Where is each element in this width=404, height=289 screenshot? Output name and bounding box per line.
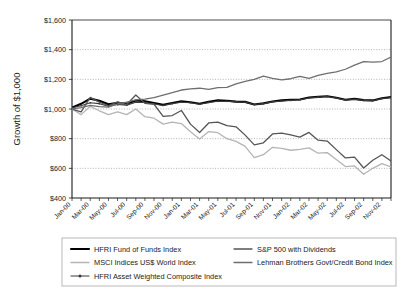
x-tick-label: May-00 — [88, 201, 109, 222]
x-tick-label: May-01 — [197, 201, 218, 222]
y-axis-label: Growth of $1,000 — [11, 73, 22, 146]
legend-item[interactable]: MSCI Indices US$ World Index — [71, 258, 196, 267]
series-marker — [390, 97, 392, 99]
series-marker — [381, 98, 383, 100]
legend-item[interactable]: HFRI Fund of Funds Index — [71, 245, 181, 254]
legend-label: MSCI Indices US$ World Index — [94, 258, 196, 267]
series-layer — [71, 57, 392, 174]
series-marker — [308, 97, 310, 99]
x-tick-label: Sep-01 — [234, 201, 255, 222]
y-tick-label: $400 — [50, 194, 66, 203]
y-tick-label: $1,200 — [44, 75, 66, 84]
series-marker — [253, 104, 255, 106]
x-tick-label: Mar-00 — [70, 201, 90, 221]
series-marker — [162, 105, 164, 107]
series-marker — [354, 98, 356, 100]
y-tick-label: $1,400 — [44, 45, 66, 54]
series-marker — [326, 96, 328, 98]
series-line-s-p-500-with-dividends — [72, 95, 391, 168]
legend-label: HFRI Fund of Funds Index — [94, 245, 181, 254]
series-marker — [135, 101, 137, 103]
y-tick-label: $800 — [50, 134, 66, 143]
legend-label: HFRI Asset Weighted Composite Index — [94, 272, 222, 281]
legend-label: Lehman Brothers Govt/Credit Bond Index — [257, 258, 393, 267]
series-marker — [345, 99, 347, 101]
legend-item[interactable]: S&P 500 with Dividends — [234, 245, 336, 254]
series-marker — [290, 100, 292, 102]
series-marker — [181, 101, 183, 103]
series-marker — [80, 105, 82, 107]
series-marker — [199, 103, 201, 105]
y-tick-label: $600 — [50, 164, 66, 173]
series-marker — [244, 101, 246, 103]
series-marker — [317, 96, 319, 98]
y-tick-label: $1,000 — [44, 105, 66, 114]
series-marker — [272, 101, 274, 103]
series-marker — [372, 100, 374, 102]
series-marker — [89, 102, 91, 104]
series-marker — [190, 102, 192, 104]
legend-item[interactable]: HFRI Asset Weighted Composite Index — [71, 272, 222, 281]
x-tick-label: Nov-02 — [362, 201, 382, 221]
x-tick-label: May-02 — [306, 201, 327, 222]
series-marker — [335, 97, 337, 99]
x-tick-label: Jan-00 — [52, 201, 71, 220]
legend-label: S&P 500 with Dividends — [257, 245, 336, 254]
series-marker — [363, 100, 365, 102]
series-marker — [281, 100, 283, 102]
series-marker — [208, 102, 210, 104]
legend-item[interactable]: Lehman Brothers Govt/Credit Bond Index — [234, 258, 393, 267]
x-tick-label: Jan-02 — [271, 201, 290, 220]
x-tick-label: Nov-00 — [143, 201, 163, 221]
series-marker — [263, 103, 265, 105]
growth-of-1000-line-chart: Growth of $1,000$400$600$800$1,000$1,200… — [0, 0, 404, 289]
y-tick-label: $1,600 — [44, 16, 66, 25]
series-marker — [217, 100, 219, 102]
x-tick-label: Mar-02 — [289, 201, 309, 221]
series-marker — [235, 101, 237, 103]
x-tick-label: Sep-02 — [343, 201, 364, 222]
x-tick-label: Mar-01 — [180, 201, 200, 221]
x-tick-label: Sep-00 — [125, 201, 146, 222]
series-line-msci-indices-us-world-index — [72, 106, 391, 174]
series-marker — [299, 99, 301, 101]
x-tick-label: Jan-01 — [162, 201, 181, 220]
chart-container: Growth of $1,000$400$600$800$1,000$1,200… — [0, 0, 404, 289]
series-marker — [226, 100, 228, 102]
series-marker — [171, 103, 173, 105]
x-tick-label: Nov-01 — [252, 201, 272, 221]
legend-marker — [79, 275, 82, 278]
